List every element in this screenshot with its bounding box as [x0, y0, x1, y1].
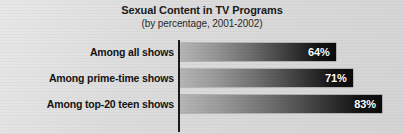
bar: 83% — [180, 95, 382, 113]
chart-title: Sexual Content in TV Programs — [0, 3, 404, 17]
plot-area: Among all shows 64% Among prime-time sho… — [0, 38, 404, 134]
bar-row: Among prime-time shows 71% — [0, 69, 404, 87]
bar-value-label: 71% — [325, 69, 347, 87]
bar-row: Among top-20 teen shows 83% — [0, 95, 404, 113]
chart-subtitle: (by percentage, 2001-2002) — [0, 17, 404, 30]
bar-value-label: 83% — [354, 95, 376, 113]
bar: 64% — [180, 43, 336, 61]
bar-value-label: 64% — [308, 43, 330, 61]
bar-category-label: Among prime-time shows — [49, 69, 174, 87]
chart-title-block: Sexual Content in TV Programs (by percen… — [0, 3, 404, 30]
bar-row: Among all shows 64% — [0, 43, 404, 61]
bar-category-label: Among top-20 teen shows — [47, 95, 174, 113]
bar-category-label: Among all shows — [90, 43, 174, 61]
chart-figure: Sexual Content in TV Programs (by percen… — [0, 0, 404, 134]
bar: 71% — [180, 69, 353, 87]
